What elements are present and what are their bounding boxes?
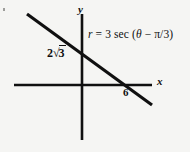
equation-label: r = 3 sec (θ − π/3) (88, 29, 173, 41)
y-axis-label: y (78, 4, 83, 15)
y-intercept-label: 2√3 (47, 47, 66, 59)
equation-minus: − (145, 28, 152, 40)
x-intercept-label: 6 (123, 87, 129, 98)
x-axis-label: x (157, 76, 163, 87)
scan-artifact-speck (3, 8, 5, 11)
equation-function: sec (114, 28, 129, 40)
equation-close-paren: ) (169, 28, 173, 40)
polar-line-figure: x y 2√3 6 r = 3 sec (θ − π/3) (0, 0, 190, 152)
equation-theta: θ (136, 28, 142, 40)
equation-lhs: r (88, 28, 93, 40)
equation-coefficient: 3 (105, 28, 111, 40)
y-intercept-radicand: 3 (59, 45, 66, 60)
equation-equals: = (96, 28, 103, 40)
